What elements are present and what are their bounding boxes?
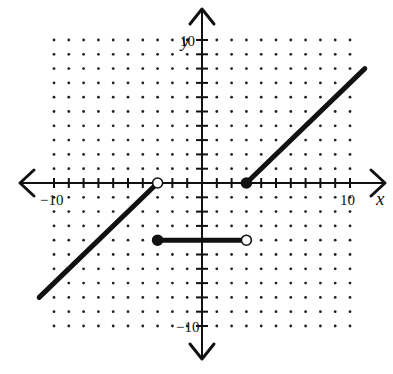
grid-dot xyxy=(289,282,292,285)
grid-dot xyxy=(260,296,263,299)
grid-dot xyxy=(245,210,248,213)
grid-dot xyxy=(275,82,278,85)
grid-dot xyxy=(67,139,70,142)
grid-dot xyxy=(275,282,278,285)
grid-dot xyxy=(67,124,70,127)
grid-dot xyxy=(97,82,100,85)
grid-dot xyxy=(53,53,56,56)
grid-dot xyxy=(349,253,352,256)
grid-dot xyxy=(215,39,218,42)
grid-dot xyxy=(82,239,85,242)
grid-dot xyxy=(53,67,56,70)
grid-dot xyxy=(230,139,233,142)
grid-dot xyxy=(349,96,352,99)
grid-dot xyxy=(289,267,292,270)
grid-dot xyxy=(82,267,85,270)
grid-dot xyxy=(127,153,130,156)
grid-dot xyxy=(215,282,218,285)
grid-dot xyxy=(171,310,174,313)
grid-dot xyxy=(215,325,218,328)
grid-dot xyxy=(260,210,263,213)
grid-dot xyxy=(215,310,218,313)
grid-dot xyxy=(319,310,322,313)
grid-dot xyxy=(141,110,144,113)
y-tick-label-max: 10 xyxy=(180,34,195,49)
grid-dot xyxy=(67,39,70,42)
grid-dot xyxy=(349,67,352,70)
grid-dot xyxy=(245,282,248,285)
grid-dot xyxy=(275,67,278,70)
grid-dot xyxy=(215,67,218,70)
grid-dot xyxy=(141,253,144,256)
grid-dot xyxy=(141,210,144,213)
grid-dot xyxy=(171,110,174,113)
grid-dot xyxy=(97,139,100,142)
grid-dot xyxy=(53,167,56,170)
grid-dot xyxy=(156,210,159,213)
grid-dot xyxy=(215,153,218,156)
grid-dot xyxy=(289,253,292,256)
grid-dot xyxy=(141,325,144,328)
grid-dot xyxy=(304,82,307,85)
grid-dot xyxy=(215,253,218,256)
grid-dot xyxy=(156,225,159,228)
grid-dot xyxy=(141,296,144,299)
grid-dot xyxy=(53,253,56,256)
grid-dot xyxy=(260,139,263,142)
grid-dot xyxy=(275,167,278,170)
grid-dot xyxy=(53,239,56,242)
grid-dot xyxy=(334,310,337,313)
grid-dot xyxy=(82,153,85,156)
grid-dot xyxy=(260,82,263,85)
grid-dot xyxy=(215,53,218,56)
grid-dot xyxy=(171,267,174,270)
grid-dot xyxy=(141,53,144,56)
grid-dot xyxy=(260,325,263,328)
y-tick-label-min: −10 xyxy=(176,320,199,335)
grid-dot xyxy=(230,167,233,170)
grid-dot xyxy=(156,124,159,127)
grid-dot xyxy=(156,96,159,99)
grid-dot xyxy=(82,96,85,99)
grid-dot xyxy=(260,196,263,199)
grid-dot xyxy=(230,325,233,328)
grid-dot xyxy=(186,196,189,199)
grid-dot xyxy=(304,225,307,228)
grid-dot xyxy=(53,139,56,142)
grid-dot xyxy=(112,153,115,156)
grid-dot xyxy=(260,39,263,42)
grid-dot xyxy=(127,282,130,285)
grid-dot xyxy=(156,167,159,170)
grid-dot xyxy=(186,96,189,99)
grid-dot xyxy=(97,167,100,170)
grid-dot xyxy=(156,325,159,328)
grid-dot xyxy=(334,225,337,228)
x-tick-label-max: 10 xyxy=(340,193,355,208)
grid-dot xyxy=(186,296,189,299)
grid-dot xyxy=(141,96,144,99)
grid-dot xyxy=(186,124,189,127)
grid-dot xyxy=(156,153,159,156)
grid-dot xyxy=(334,267,337,270)
graph-line xyxy=(246,69,364,183)
grid-dot xyxy=(171,253,174,256)
grid-dot xyxy=(67,153,70,156)
grid-dot xyxy=(53,225,56,228)
grid-dot xyxy=(156,53,159,56)
grid-dot xyxy=(171,325,174,328)
grid-dot xyxy=(230,196,233,199)
grid-dot xyxy=(230,210,233,213)
grid-dot xyxy=(127,296,130,299)
grid-dot xyxy=(334,67,337,70)
grid-dot xyxy=(141,239,144,242)
grid-dot xyxy=(112,167,115,170)
grid-dot xyxy=(275,267,278,270)
grid-dot xyxy=(171,196,174,199)
grid-dot xyxy=(334,110,337,113)
x-tick-label-min: −10 xyxy=(40,193,63,208)
grid-dot xyxy=(186,110,189,113)
grid-dot xyxy=(141,139,144,142)
grid-dot xyxy=(112,282,115,285)
grid-dot xyxy=(82,82,85,85)
grid-dot xyxy=(289,82,292,85)
